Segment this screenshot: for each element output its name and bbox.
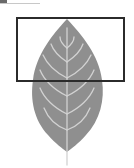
selection-rectangle[interactable] [16,17,125,82]
